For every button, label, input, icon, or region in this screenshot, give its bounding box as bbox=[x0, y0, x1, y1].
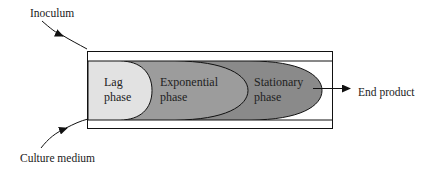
stationary-phase-label-line2: phase bbox=[254, 90, 281, 104]
end-product-label: End product bbox=[358, 86, 415, 99]
inoculum-arrow-icon bbox=[42, 21, 63, 36]
inoculum-label: Inoculum bbox=[30, 7, 74, 19]
lag-phase-label-line2: phase bbox=[104, 90, 131, 104]
exponential-phase-label-line2: phase bbox=[160, 90, 187, 104]
fermentation-diagram: Lag phase Exponential phase Stationary p… bbox=[0, 0, 438, 171]
culture-medium-label: Culture medium bbox=[20, 152, 95, 164]
culture-medium-arrow-tail bbox=[66, 119, 88, 128]
inoculum-arrow-tail bbox=[62, 35, 87, 49]
lag-phase-label-line1: Lag bbox=[104, 75, 123, 89]
stationary-phase-label-line1: Stationary bbox=[254, 75, 303, 89]
culture-medium-arrow-icon bbox=[41, 128, 67, 148]
exponential-phase-label-line1: Exponential bbox=[160, 75, 219, 89]
